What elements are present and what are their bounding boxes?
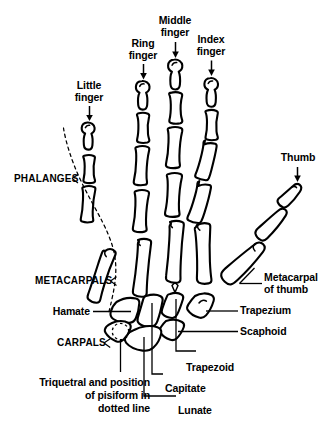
scaphoid-bone (160, 320, 184, 340)
scaphoid-label: Scaphoid (240, 326, 286, 338)
finger-metacarpal-bones (87, 221, 211, 303)
little-finger-arrow (86, 106, 93, 121)
lunate-label: Lunate (178, 405, 212, 417)
metacarpal-of-thumb-label: Metacarpal of thumb (264, 272, 318, 296)
trapezium-label: Trapezium (240, 305, 291, 317)
metacarpals-region-label: METACARPALS (35, 275, 112, 286)
phalanges-region-label: PHALANGES (14, 173, 79, 184)
thumb-label: Thumb (272, 152, 324, 164)
index-finger-label: Index finger (178, 34, 244, 58)
capitate-label: Capitate (165, 383, 206, 395)
little-finger-label: Little finger (56, 80, 122, 104)
middle-finger-bones (165, 59, 182, 216)
ring-finger-arrow (140, 64, 147, 80)
ring-finger-label: Ring finger (110, 38, 176, 62)
capitate-bone (137, 295, 162, 327)
ring-finger-bones (133, 81, 150, 232)
thumb-bones (255, 184, 301, 241)
trapezoid-label: Trapezoid (186, 362, 234, 374)
trapezoid-bone (162, 293, 184, 318)
carpals-region-label: CARPALS (57, 337, 106, 348)
index-finger-bones (187, 78, 218, 223)
trapezium-bone (187, 293, 214, 318)
hand-skeleton-illustration (0, 0, 332, 433)
index-finger-arrow (208, 61, 215, 77)
hand-bones-diagram: Little finger Ring finger Middle finger … (0, 0, 332, 433)
little-finger-bones (81, 122, 96, 222)
finger-label-arrows (86, 42, 301, 182)
thumb-metacarpal-bone (221, 243, 264, 285)
hamate-label: Hamate (20, 306, 90, 318)
triquetral-pisiform-label: Triquetral and position of pisiform in d… (8, 376, 150, 415)
thumb-arrow (294, 167, 301, 182)
hamate-bone (110, 298, 139, 323)
